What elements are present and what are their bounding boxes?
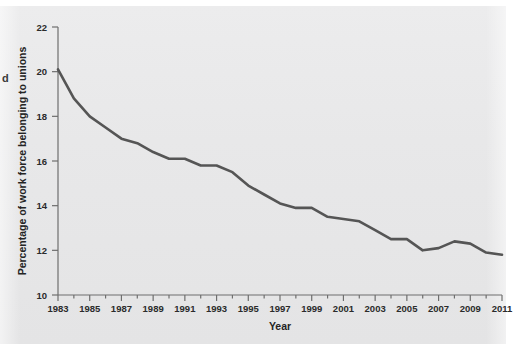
x-tick-label: 1993 — [206, 303, 227, 314]
y-tick-label: 18 — [36, 111, 47, 122]
y-tick-label: 16 — [36, 156, 47, 167]
y-tick-label: 20 — [36, 66, 47, 77]
x-tick-label: 1995 — [238, 303, 260, 314]
x-tick-label: 1989 — [143, 303, 164, 314]
x-tick-label: 2011 — [492, 303, 513, 314]
union-membership-trend-line — [58, 69, 502, 254]
x-tick-label: 2005 — [396, 303, 418, 314]
x-tick-marks — [58, 295, 502, 301]
x-tick-label: 2007 — [428, 303, 449, 314]
y-tick-labels: 10121416182022 — [36, 22, 47, 301]
x-tick-label: 1991 — [174, 303, 196, 314]
figure-container: d 10121416182022 19831985198719891991199… — [0, 0, 522, 350]
x-tick-labels: 1983198519871989199119931995199719992001… — [47, 303, 513, 314]
x-tick-label: 1997 — [269, 303, 290, 314]
axes-group — [52, 27, 502, 301]
x-tick-label: 2003 — [365, 303, 386, 314]
y-tick-label: 22 — [36, 22, 47, 33]
x-tick-label: 1987 — [111, 303, 132, 314]
x-axis-title: Year — [269, 320, 291, 332]
y-tick-marks — [52, 27, 58, 295]
y-axis-title: Percentage of work force belonging to un… — [16, 47, 28, 276]
x-tick-label: 1999 — [301, 303, 322, 314]
y-tick-label: 10 — [36, 290, 47, 301]
y-tick-label: 12 — [36, 245, 47, 256]
line-chart: 10121416182022 1983198519871989199119931… — [0, 0, 522, 350]
x-tick-label: 1983 — [47, 303, 68, 314]
x-tick-label: 2001 — [333, 303, 355, 314]
y-tick-label: 14 — [36, 200, 47, 211]
x-tick-label: 1985 — [79, 303, 101, 314]
x-tick-label: 2009 — [460, 303, 481, 314]
